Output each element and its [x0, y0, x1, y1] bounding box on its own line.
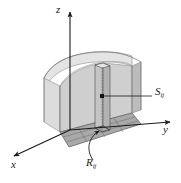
x-axis [14, 130, 70, 156]
solid-left-face [44, 78, 60, 132]
surface-point-label: Sij [155, 86, 164, 99]
solid-right-face [132, 62, 141, 113]
axis-label-z: z [56, 4, 60, 15]
axis-label-y: y [163, 124, 168, 135]
base-rectangle-label-base: R [86, 156, 93, 168]
sample-point-dot [100, 94, 104, 98]
figure-canvas: z y x Sij Rij [0, 0, 181, 183]
base-rectangle-label-subscript: ij [93, 162, 97, 169]
axis-label-x: x [11, 159, 16, 170]
column-right-face [103, 63, 110, 130]
surface-point-label-subscript: ij [161, 91, 165, 98]
base-rectangle-label: Rij [86, 157, 96, 170]
